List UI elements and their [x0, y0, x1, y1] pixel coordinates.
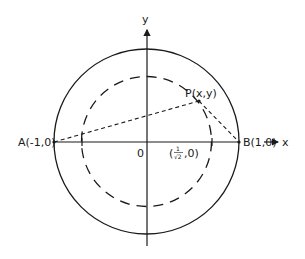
x-axis-label: x: [282, 136, 289, 149]
y-axis-label: y: [142, 13, 149, 26]
intercept-open-paren: (: [169, 147, 173, 160]
point-b-label: B(1,0): [243, 136, 277, 149]
point-b-dot: [237, 140, 240, 143]
segment-ap: [54, 101, 199, 142]
intercept-numerator: 1: [176, 145, 180, 152]
point-a-label: A(-1,0): [18, 136, 56, 149]
intercept-denominator: √2: [174, 153, 182, 160]
origin-label: 0: [137, 147, 144, 160]
intercept-close: ,0): [184, 147, 199, 160]
circle-diagram: y A(-1,0) B(1,0) x P(x,y) 0 ( 1 √2 ,0): [0, 0, 305, 259]
point-p-label: P(x,y): [185, 87, 217, 100]
